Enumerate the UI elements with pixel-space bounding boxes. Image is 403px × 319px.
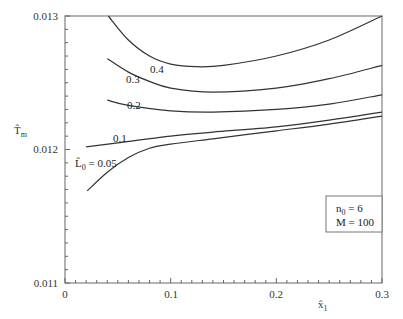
legend-M: M = 100	[336, 216, 374, 228]
curve-label-0-2: 0.2	[127, 99, 141, 111]
y-tick-label: 0.011	[34, 277, 58, 289]
y-tick-label: 0.012	[33, 143, 58, 155]
curve-L0-0-05	[87, 116, 382, 191]
curve-label-0-1: 0.1	[113, 132, 127, 144]
curve-L0-0-3	[107, 59, 382, 92]
plot-frame	[65, 16, 382, 283]
axis-ticks	[65, 16, 382, 283]
curve-L0-0-4	[108, 16, 382, 67]
x-axis-label: x̂1	[318, 298, 328, 313]
y-axis-label: T̂m	[14, 124, 28, 139]
curve-L0-0-1	[86, 112, 382, 147]
curve-label-0-3: 0.3	[126, 73, 140, 85]
x-tick-label: 0.2	[269, 288, 283, 300]
curve-label-0-4: 0.4	[150, 63, 164, 75]
y-tick-label: 0.013	[33, 10, 58, 22]
x-tick-label: 0.1	[164, 288, 178, 300]
chart: 0.013 0.012 0.011 0 0.1 0.2 0.3 T̂m x̂1 …	[0, 0, 403, 319]
curve-L0-0-2	[107, 95, 382, 112]
x-tick-label: 0.3	[375, 288, 389, 300]
x-tick-label: 0	[62, 288, 68, 300]
